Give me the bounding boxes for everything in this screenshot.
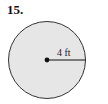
circle-diagram: 4 ft <box>0 0 108 104</box>
center-point <box>45 58 50 63</box>
radius-label: 4 ft <box>57 47 71 58</box>
